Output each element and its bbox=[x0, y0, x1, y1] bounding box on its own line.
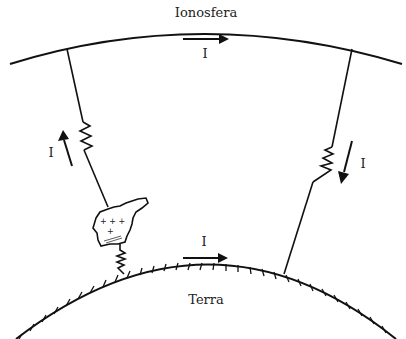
left-upper-resistor bbox=[80, 122, 92, 150]
left-circuit-branch bbox=[67, 49, 108, 207]
right-resistor bbox=[313, 147, 333, 182]
left-current-label: I bbox=[48, 145, 53, 160]
right-circuit-branch bbox=[284, 49, 352, 274]
bottom-current-label: I bbox=[201, 234, 206, 249]
top-current-arrow-icon bbox=[183, 34, 229, 44]
thundercloud: + + + + bbox=[93, 198, 148, 246]
right-current-label: I bbox=[360, 156, 365, 171]
cloud-positive-charges: + + + bbox=[100, 217, 125, 226]
left-lower-resistor bbox=[117, 244, 125, 274]
ionosphere-label: Ionosfera bbox=[175, 5, 238, 20]
left-current-arrow-icon bbox=[58, 130, 72, 166]
global-circuit-diagram: Ionosfera I bbox=[0, 0, 406, 339]
bottom-current-arrow-icon bbox=[183, 253, 228, 263]
svg-text:+: + bbox=[107, 227, 114, 236]
top-current-label: I bbox=[202, 46, 207, 61]
right-current-arrow-icon bbox=[338, 141, 352, 184]
earth-label: Terra bbox=[188, 292, 224, 307]
